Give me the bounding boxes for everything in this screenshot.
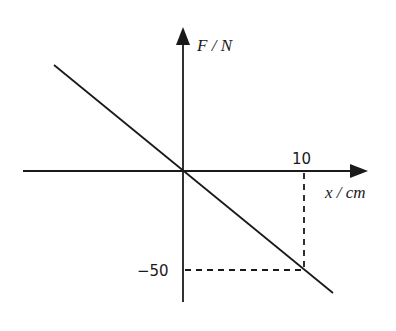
y-tick-label: −50 [137,262,169,280]
x-axis-label: x / cm [324,183,366,202]
data-line [54,65,333,293]
y-axis-arrow-icon [176,27,190,45]
force-extension-chart: F / N 10 x / cm −50 [0,0,396,331]
x-axis-arrow-icon [350,164,368,178]
y-axis-label: F / N [196,36,234,55]
x-tick-label: 10 [292,150,311,168]
